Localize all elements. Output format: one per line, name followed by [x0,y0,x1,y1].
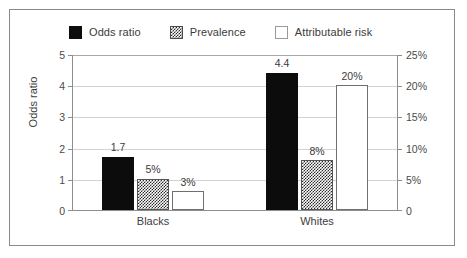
tick-left-2 [68,149,73,150]
y-axis-title-left: Odds ratio [27,47,39,157]
bar-whites-attributable-risk [336,85,368,210]
solid-black-swatch-icon [69,26,82,39]
bar-label-whites-prevalence: 8% [309,145,324,157]
legend-label-prevalence: Prevalence [190,26,246,38]
y-tick-left-4: 4 [59,80,65,92]
bar-label-whites-attributable-risk: 20% [341,70,362,82]
tick-left-5 [68,55,73,56]
tick-right-15 [397,117,402,118]
x-category-label-whites: Whites [300,215,334,227]
y-tick-left-0: 0 [59,205,65,217]
bar-blacks-odds-ratio [102,157,134,210]
legend-label-attributable-risk: Attributable risk [295,26,373,38]
tick-left-1 [68,180,73,181]
plot-area: 1.7 5% 3% 4.4 8% 20% Blacks Whites [72,55,398,211]
bar-label-blacks-prevalence: 5% [145,163,160,175]
x-category-label-blacks: Blacks [137,215,169,227]
chart-figure: Odds ratio Prevalence Attributable risk … [0,0,467,258]
bar-label-whites-odds-ratio: 4.4 [275,57,290,69]
tick-right-25 [397,55,402,56]
tick-right-0 [397,210,402,211]
legend-item-attributable-risk: Attributable risk [275,26,373,39]
y-tick-right-10: 10% [406,143,427,155]
empty-white-swatch-icon [275,26,288,39]
y-tick-right-15: 15% [406,111,427,123]
bar-whites-odds-ratio [266,73,298,210]
tick-left-4 [68,86,73,87]
tick-right-10 [397,149,402,150]
gridline-5 [73,55,397,56]
legend-item-prevalence: Prevalence [170,26,246,39]
y-tick-right-5: 5% [406,174,421,186]
bar-whites-prevalence [301,160,333,210]
chart-legend: Odds ratio Prevalence Attributable risk [69,24,401,40]
tick-right-20 [397,86,402,87]
y-tick-left-1: 1 [59,174,65,186]
y-tick-right-0: 0 [406,205,412,217]
y-tick-left-2: 2 [59,143,65,155]
bar-blacks-prevalence [137,179,169,210]
y-axis-left-ticks: 5 4 3 2 1 0 [48,55,65,211]
tick-left-3 [68,117,73,118]
bar-blacks-attributable-risk [172,191,204,210]
tick-right-5 [397,180,402,181]
legend-label-odds-ratio: Odds ratio [89,26,141,38]
checkerboard-swatch-icon [170,26,183,39]
y-tick-left-5: 5 [59,49,65,61]
legend-item-odds-ratio: Odds ratio [69,26,141,39]
bar-label-blacks-odds-ratio: 1.7 [111,141,126,153]
bar-label-blacks-attributable-risk: 3% [180,176,195,188]
y-axis-right-ticks: 25% 20% 15% 10% 5% 0 [406,55,450,211]
y-tick-right-20: 20% [406,80,427,92]
y-tick-left-3: 3 [59,111,65,123]
y-tick-right-25: 25% [406,49,427,61]
tick-left-0 [68,210,73,211]
